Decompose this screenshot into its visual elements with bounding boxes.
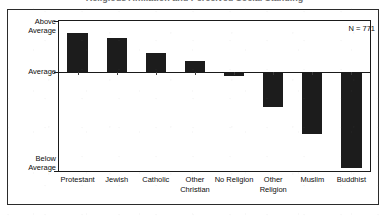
clipped-chart-title: Religious Affiliation and Perceived Soci…: [0, 0, 389, 8]
bar: [185, 61, 205, 72]
bar: [263, 72, 283, 107]
x-axis-tick: [351, 72, 352, 75]
x-axis-tick: [273, 72, 274, 75]
bar: [107, 38, 127, 72]
zero-baseline: [58, 72, 371, 73]
bar: [67, 33, 87, 72]
bar-series: [58, 20, 371, 172]
sample-size-annotation: N = 771: [349, 24, 375, 33]
x-axis-tick: [117, 72, 118, 75]
bar: [302, 72, 322, 134]
y-axis-label-average: Average: [2, 68, 56, 77]
chart-figure: Religious Affiliation and Perceived Soci…: [0, 0, 389, 219]
x-axis-label: Buddhist: [328, 175, 375, 185]
x-axis-tick: [195, 72, 196, 75]
bar: [341, 72, 361, 168]
x-axis-labels: ProtestantJewishCatholicOther ChristianN…: [58, 175, 371, 209]
x-axis-tick: [312, 72, 313, 75]
x-axis-tick: [234, 72, 235, 75]
bar: [146, 53, 166, 72]
y-axis-label-above-average: Above Average: [2, 18, 56, 35]
y-axis-labels: Above Average Average Below Average: [0, 0, 56, 219]
x-axis-tick: [78, 72, 79, 75]
x-axis-tick: [156, 72, 157, 75]
y-axis-label-below-average: Below Average: [2, 155, 56, 172]
